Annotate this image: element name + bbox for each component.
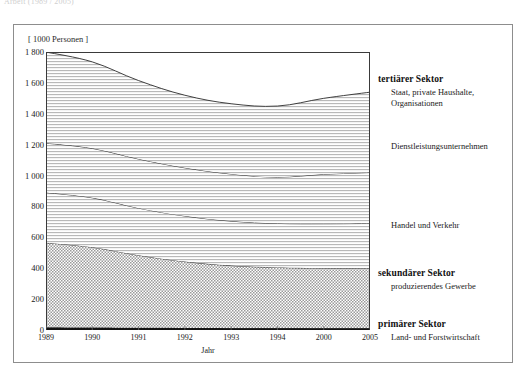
- x-axis-tick-labels: 19891990199119921993199420002005: [46, 333, 370, 347]
- annotation-primary-sub: Land- und Forstwirtschaft: [378, 332, 518, 343]
- x-tick-label: 1989: [38, 333, 54, 342]
- y-axis-tick-labels: 02004006008001 0001 2001 4001 6001 800: [14, 52, 44, 330]
- annotation-tertiary: tertiärer Sektor Staat, private Haushalt…: [378, 74, 518, 108]
- annotation-primary-title: primärer Sektor: [378, 319, 518, 329]
- y-tick-label: 1 200: [25, 140, 44, 150]
- stacked-area-chart: [46, 52, 370, 330]
- annotation-services: Dienstleistungsunternehmen: [378, 141, 518, 151]
- annotation-tertiary-sub: Staat, private Haushalte, Organisationen: [378, 87, 518, 108]
- annotation-tertiary-sub-line1: Staat, private Haushalte,: [391, 87, 518, 98]
- annotation-secondary: sekundärer Sektor produzierendes Gewerbe: [378, 268, 518, 292]
- annotation-secondary-sub: produzierendes Gewerbe: [378, 281, 518, 292]
- x-tick-label: 1990: [84, 333, 100, 342]
- y-axis-unit-label: [ 1000 Personen ]: [28, 34, 88, 44]
- annotation-secondary-title: sekundärer Sektor: [378, 268, 518, 278]
- x-tick-label: 1991: [131, 333, 147, 342]
- y-tick-label: 1 600: [25, 78, 44, 88]
- annotation-trade-transport: Handel und Verkehr: [378, 220, 518, 230]
- y-tick-label: 1 800: [25, 47, 44, 57]
- plot-area: [46, 52, 370, 330]
- x-tick-label: 1992: [177, 333, 193, 342]
- x-tick-label: 1993: [223, 333, 239, 342]
- annotation-services-label: Dienstleistungsunternehmen: [378, 141, 518, 151]
- top-caption: Arbeit (1989 / 2005): [4, 0, 74, 6]
- y-tick-label: 1 000: [25, 171, 44, 181]
- y-tick-label: 400: [31, 263, 44, 273]
- annotation-tertiary-title: tertiärer Sektor: [378, 74, 518, 84]
- y-tick-label: 200: [31, 294, 44, 304]
- x-tick-label: 2000: [316, 333, 332, 342]
- y-tick-label: 1 400: [25, 109, 44, 119]
- annotation-tertiary-sub-line2: Organisationen: [391, 98, 518, 109]
- x-axis-title: Jahr: [46, 346, 370, 355]
- series-annotations: tertiärer Sektor Staat, private Haushalt…: [378, 52, 518, 352]
- y-tick-label: 800: [31, 201, 44, 211]
- annotation-trade-transport-label: Handel und Verkehr: [378, 220, 518, 230]
- chart-screenshot: Arbeit (1989 / 2005) [ 1000 Personen ] 0…: [0, 0, 525, 376]
- x-tick-label: 1994: [269, 333, 285, 342]
- y-tick-label: 600: [31, 232, 44, 242]
- annotation-primary: primärer Sektor Land- und Forstwirtschaf…: [378, 319, 518, 343]
- x-tick-label: 2005: [362, 333, 378, 342]
